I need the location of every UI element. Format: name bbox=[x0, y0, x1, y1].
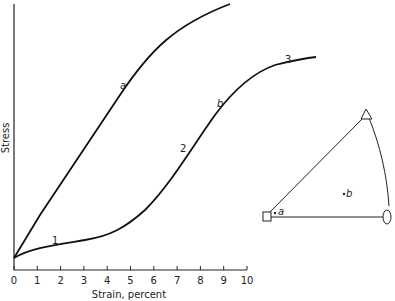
label-curve-a: a bbox=[120, 80, 126, 91]
y-axis-title: Stress bbox=[0, 123, 11, 154]
x-tick-7: 7 bbox=[174, 275, 180, 286]
inset-diagram: a b bbox=[263, 109, 391, 224]
inset-point-a bbox=[274, 212, 276, 214]
x-tick-4: 4 bbox=[104, 275, 110, 286]
ellipse-icon bbox=[383, 210, 391, 224]
x-axis-title: Strain, percent bbox=[92, 289, 166, 300]
curve-a bbox=[14, 4, 230, 258]
x-tick-5: 5 bbox=[127, 275, 133, 286]
curve-b bbox=[14, 57, 316, 258]
inset-diagonal-line bbox=[268, 117, 364, 214]
x-tick-labels: 0 1 2 3 4 5 6 7 8 9 10 bbox=[11, 275, 254, 286]
x-tick-9: 9 bbox=[221, 275, 227, 286]
inset-label-b: b bbox=[346, 188, 352, 199]
square-icon bbox=[263, 212, 271, 221]
label-region-2: 2 bbox=[180, 143, 186, 154]
x-tick-3: 3 bbox=[81, 275, 87, 286]
x-tick-8: 8 bbox=[197, 275, 203, 286]
inset-point-b bbox=[343, 193, 345, 195]
x-tick-0: 0 bbox=[11, 275, 17, 286]
label-region-1: 1 bbox=[52, 235, 58, 246]
label-region-3: 3 bbox=[285, 54, 291, 65]
x-tick-2: 2 bbox=[57, 275, 63, 286]
triangle-icon bbox=[361, 109, 372, 119]
x-tick-1: 1 bbox=[34, 275, 40, 286]
stress-strain-chart: 0 1 2 3 4 5 6 7 8 9 10 Strain, percent S… bbox=[0, 0, 395, 301]
label-curve-b: b bbox=[217, 98, 223, 109]
x-tick-10: 10 bbox=[241, 275, 254, 286]
x-tick-6: 6 bbox=[151, 275, 157, 286]
inset-arc bbox=[369, 118, 389, 206]
inset-label-a: a bbox=[278, 206, 284, 217]
